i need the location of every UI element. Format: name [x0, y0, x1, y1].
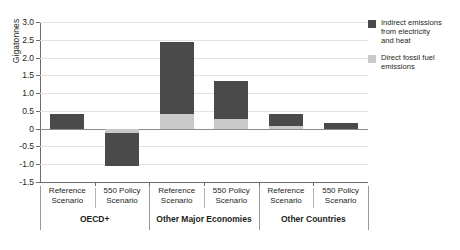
legend-item-indirect-emissions: Indirect emissions from electricity and … — [368, 18, 460, 45]
group-label: OECD+ — [40, 214, 149, 224]
bar-segment-direct — [214, 119, 248, 129]
axis-separator — [149, 186, 150, 230]
legend-label-line-1: Indirect emissions — [381, 18, 460, 27]
gridline — [40, 146, 368, 147]
bar-4 — [269, 22, 303, 182]
category-label-line-1: Reference — [40, 186, 94, 196]
y-tick-label: 3.0 — [0, 17, 34, 27]
category-label-line-2: Scenario — [204, 196, 258, 206]
axis-separator — [204, 188, 205, 208]
category-label-line-1: 550 Policy — [204, 186, 258, 196]
bar-segment-indirect — [214, 81, 248, 119]
bar-segment-direct — [160, 114, 194, 129]
category-label-line-1: Reference — [259, 186, 313, 196]
category-label-line-1: 550 Policy — [314, 186, 368, 196]
category-label-line-1: Reference — [150, 186, 204, 196]
axis-separator — [368, 186, 369, 230]
axis-separator — [313, 188, 314, 208]
legend-swatch-direct-icon — [368, 55, 376, 63]
emissions-bar-chart: Gigatonnes 3.02.52.01.51.00.50-0.5-1.0-1… — [0, 0, 460, 250]
bar-5 — [324, 22, 358, 182]
category-label-line-2: Scenario — [95, 196, 149, 206]
x-category-label: ReferenceScenario — [150, 186, 204, 206]
bar-3 — [214, 22, 248, 182]
bar-segment-direct — [269, 126, 303, 129]
axis-separator — [40, 186, 41, 230]
category-label-line-2: Scenario — [259, 196, 313, 206]
bar-segment-indirect — [160, 42, 194, 114]
y-tick-label: 2.5 — [0, 35, 34, 45]
y-tick-label: 0.5 — [0, 106, 34, 116]
bar-segment-indirect — [50, 114, 84, 129]
axis-separator — [95, 188, 96, 208]
x-axis-group-labels: OECD+Other Major EconomiesOther Countrie… — [40, 214, 368, 230]
x-category-label: 550 PolicyScenario — [204, 186, 258, 206]
group-label: Other Major Economies — [149, 214, 258, 224]
x-category-label: ReferenceScenario — [40, 186, 94, 206]
gridline — [40, 164, 368, 165]
legend-label-line-3: and heat — [381, 36, 460, 45]
x-category-label: 550 PolicyScenario — [95, 186, 149, 206]
legend-label-line-2: emissions — [381, 62, 460, 71]
bar-segment-indirect — [269, 114, 303, 125]
legend-label-line-2: from electricity — [381, 27, 460, 36]
x-category-label: ReferenceScenario — [259, 186, 313, 206]
legend-label-line-1: Direct fossil fuel — [381, 53, 460, 62]
axis-separator — [259, 186, 260, 230]
y-tick-label: 1.5 — [0, 70, 34, 80]
bar-segment-indirect — [324, 123, 358, 128]
bar-2 — [160, 22, 194, 182]
gridline — [40, 40, 368, 41]
bar-segment-indirect — [105, 133, 139, 166]
gridline — [40, 58, 368, 59]
legend-item-direct-emissions: Direct fossil fuel emissions — [368, 53, 460, 71]
x-category-label: 550 PolicyScenario — [314, 186, 368, 206]
category-label-line-2: Scenario — [40, 196, 94, 206]
category-label-line-2: Scenario — [314, 196, 368, 206]
plot-area — [40, 22, 368, 182]
y-tick-label: -1.5 — [0, 177, 34, 187]
legend-swatch-indirect-icon — [368, 20, 376, 28]
gridline — [40, 111, 368, 112]
gridline — [40, 22, 368, 23]
y-tick-label: 2.0 — [0, 53, 34, 63]
gridline — [40, 75, 368, 76]
zero-line — [40, 129, 368, 130]
group-label: Other Countries — [259, 214, 368, 224]
category-label-line-1: 550 Policy — [95, 186, 149, 196]
y-tick-label: -1.0 — [0, 159, 34, 169]
chart-legend: Indirect emissions from electricity and … — [368, 18, 460, 79]
y-tick-label: -0.5 — [0, 141, 34, 151]
bar-0 — [50, 22, 84, 182]
y-tick-label: 0 — [0, 124, 34, 134]
gridline — [40, 93, 368, 94]
bar-1 — [105, 22, 139, 182]
y-tick-label: 1.0 — [0, 88, 34, 98]
category-label-line-2: Scenario — [150, 196, 204, 206]
